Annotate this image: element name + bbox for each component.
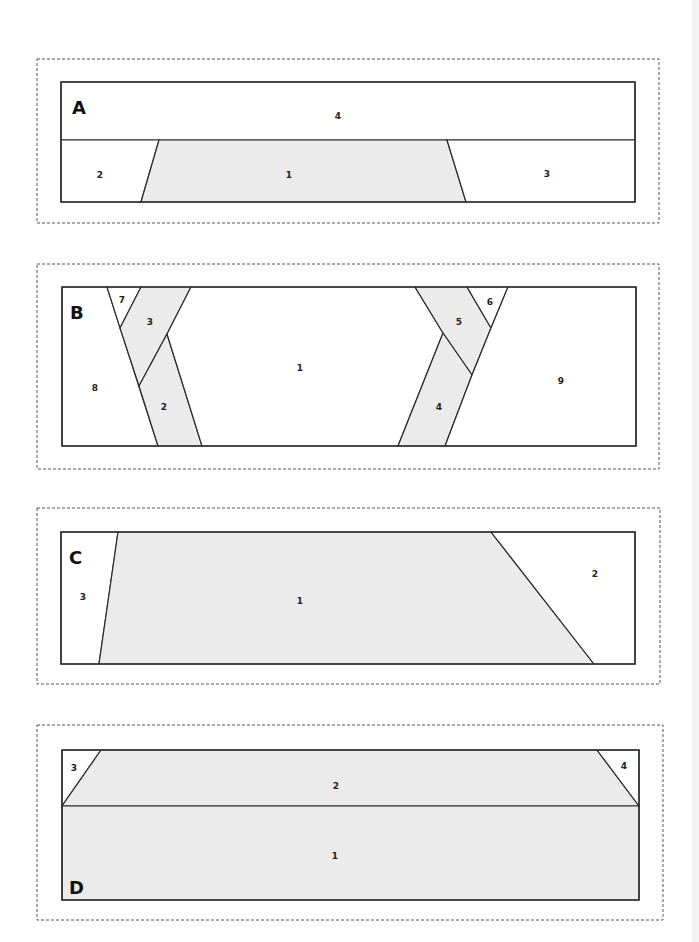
piece-1	[141, 140, 466, 202]
piece-2	[62, 750, 639, 806]
piece-number-label: 4	[621, 761, 627, 771]
panel-letter-label: A	[72, 97, 86, 118]
panel-b: 873215649B	[37, 264, 659, 469]
piece-number-label: 3	[80, 592, 86, 602]
piece-number-label: 1	[286, 170, 292, 180]
panel-a: 4213A	[37, 59, 659, 223]
panel-d: 3241D	[37, 725, 663, 920]
piece-number-label: 7	[119, 295, 125, 305]
piece-number-label: 1	[332, 851, 338, 861]
piece-number-label: 1	[297, 596, 303, 606]
piece-1	[62, 806, 639, 900]
panel-letter-label: C	[69, 547, 82, 568]
panel-c: 312C	[37, 508, 660, 684]
piece-number-label: 9	[558, 376, 564, 386]
piece-number-label: 2	[161, 402, 167, 412]
piece-number-label: 3	[544, 169, 550, 179]
piece-4	[61, 82, 635, 140]
piece-3	[447, 140, 635, 202]
piece-number-label: 1	[297, 363, 303, 373]
piece-number-label: 4	[335, 111, 341, 121]
panel-letter-label: B	[70, 302, 84, 323]
piece-1	[167, 287, 443, 446]
piece-number-label: 2	[333, 781, 339, 791]
piece-number-label: 6	[487, 297, 493, 307]
piece-number-label: 3	[147, 317, 153, 327]
panel-letter-label: D	[69, 877, 84, 898]
piece-number-label: 2	[592, 569, 598, 579]
piece-number-label: 4	[436, 402, 442, 412]
piece-number-label: 3	[71, 763, 77, 773]
piece-number-label: 5	[456, 317, 462, 327]
piece-number-label: 8	[92, 383, 98, 393]
foundation-piecing-diagram: 4213A873215649B312C3241D	[0, 0, 699, 942]
piece-number-label: 2	[97, 170, 103, 180]
